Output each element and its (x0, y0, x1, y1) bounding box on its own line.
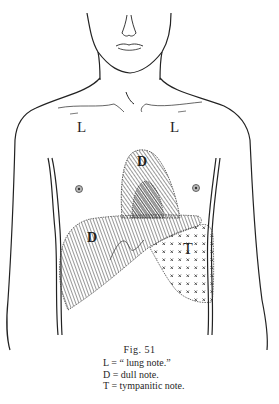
figure-legend: L = “ lung note.” D = dull note. T = tym… (103, 357, 185, 392)
label-heart-dull: D (137, 154, 147, 170)
legend-item-tympanitic: T = tympanitic note. (103, 380, 185, 392)
nipple-right (193, 185, 200, 192)
figure-title: Fig. 51 (0, 344, 279, 355)
label-lung-right: L (170, 119, 179, 136)
label-lung-left: L (77, 119, 86, 136)
legend-item-dull: D = dull note. (103, 369, 185, 381)
label-stomach-tympanitic: T (183, 240, 193, 258)
label-liver-dull: D (87, 230, 97, 246)
nipple-left (76, 186, 83, 193)
legend-item-lung: L = “ lung note.” (103, 357, 185, 369)
